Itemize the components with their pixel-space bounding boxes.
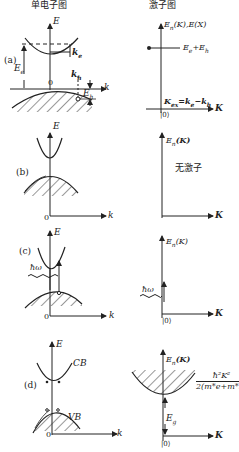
panel-c-left-origin: 0 (44, 313, 49, 321)
panel-d-right-ground-state: |0⟩ (161, 441, 171, 448)
panel-a-left-y-axis-label: E (53, 17, 60, 26)
panel-c-left-photon-label: ħω (30, 264, 42, 272)
panel-c-right-ground-state: |0⟩ (162, 318, 172, 325)
panel-d-right-y-axis-label: En(K) (166, 355, 190, 366)
band-gap-label: Eg (166, 414, 176, 425)
panel-c-left-y-axis-label: E (54, 228, 61, 237)
exciton-dispersion-formula: ħ²K² 2(m*e+m*h) (196, 372, 239, 391)
dispersion-denominator: 2(m*e+m*h) (196, 382, 239, 391)
panel-c-label: (c) (19, 247, 31, 256)
panel-b-label: (b) (16, 168, 29, 177)
panel-d-left-origin: 0 (46, 431, 51, 439)
no-exciton-note: 无激子 (175, 164, 202, 173)
panel-b-left-x-axis-label: k (108, 211, 113, 220)
panel-a-right-y-axis-label: En(K),E(X) (164, 21, 206, 31)
panel-d-left-x-axis-label: k (117, 429, 122, 438)
panel-b-left-origin: 0 (44, 214, 49, 222)
panel-b-right-y-axis-label: En(K) (166, 136, 190, 147)
panel-a-right-x-axis-label: K (215, 104, 223, 113)
panel-d-right-x-axis-label: K (215, 431, 223, 440)
panel-c-right-x-axis-label: K (215, 309, 223, 318)
panel-c-right-diagram (140, 236, 213, 318)
panel-b-right-x-axis-label: K (215, 211, 223, 220)
electron-energy-label: Ee (14, 64, 24, 75)
panel-c-left-x-axis-label: k (109, 311, 114, 320)
electron-momentum-label: ke (72, 48, 82, 59)
exciton-momentum-label: Kex=ke−kh (164, 97, 211, 108)
valence-band-label: VB (68, 413, 81, 422)
hole-momentum-label: kh (71, 70, 82, 81)
panel-a-left-x-axis-label: k (104, 83, 109, 92)
left-column-title: 单电子图 (31, 1, 67, 10)
panel-c-left-diagram (25, 231, 106, 316)
right-column-title: 激子图 (149, 1, 176, 10)
panel-a-left-origin: 0 (48, 79, 53, 87)
panel-d-left-y-axis-label: E (56, 340, 63, 349)
conduction-band-label: CB (73, 359, 87, 368)
panel-b-left-y-axis-label: E (53, 122, 60, 131)
panel-a-right-ground-state: |0⟩ (160, 112, 170, 119)
exciton-energy-level-label: Ee+Eh (183, 44, 209, 54)
panel-c-right-y-axis-label: En(K) (166, 238, 188, 248)
panel-c-right-photon-label: ħω (142, 286, 154, 294)
hole-energy-label: Eh (83, 89, 93, 100)
panel-d-label: (d) (24, 381, 37, 390)
panel-b-left-diagram (24, 133, 106, 216)
dispersion-numerator: ħ²K² (196, 372, 239, 382)
